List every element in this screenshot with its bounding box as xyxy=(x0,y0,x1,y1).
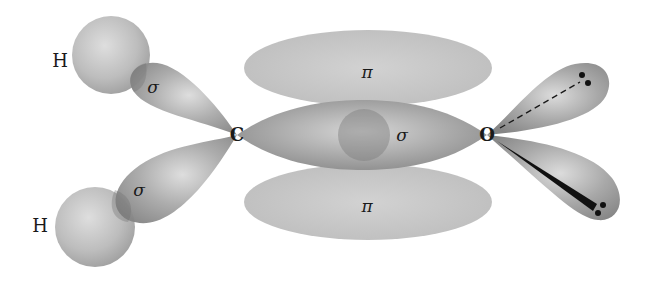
label-sigma-co: σ xyxy=(396,125,408,145)
sigma-overlap-region xyxy=(338,109,390,161)
label-sigma-ch-top: σ xyxy=(147,77,159,97)
label-pi-top: π xyxy=(360,62,373,82)
electron-dot xyxy=(595,210,601,216)
oxygen-lone-pair-upper xyxy=(487,63,609,135)
label-h-top: H xyxy=(52,50,68,71)
electron-dot xyxy=(600,202,606,208)
electron-dot xyxy=(579,72,585,78)
formaldehyde-orbital-diagram: H H C O σ σ σ π π xyxy=(0,0,649,286)
label-h-bottom: H xyxy=(32,215,48,236)
label-sigma-ch-bottom: σ xyxy=(133,180,145,200)
electron-dot xyxy=(585,80,591,86)
label-oxygen: O xyxy=(479,124,495,145)
sigma-co-bond xyxy=(237,100,487,170)
label-pi-bottom: π xyxy=(360,196,373,216)
label-carbon: C xyxy=(230,124,244,145)
oxygen-lone-pair-lower xyxy=(487,135,620,220)
